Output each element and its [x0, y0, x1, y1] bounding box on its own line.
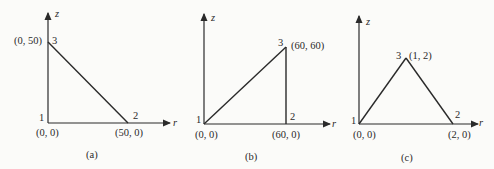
diagram-canvas: [0, 0, 494, 169]
caption-b: (b): [245, 152, 257, 163]
figure-b: [204, 14, 330, 124]
node-3-coord-c: (1, 2): [409, 51, 432, 62]
edge-1-3-b: [204, 47, 286, 124]
node-3-coord-b: (60, 60): [291, 41, 324, 52]
edge-1-3-c: [359, 58, 406, 124]
node-1-id-a: 1: [39, 113, 44, 124]
node-2-coord-a: (50, 0): [115, 128, 143, 139]
figure-c: [359, 16, 478, 124]
node-1-coord-b: (0, 0): [195, 130, 218, 141]
node-1-coord-c: (0, 0): [353, 130, 376, 141]
caption-a: (a): [86, 150, 98, 161]
node-1-coord-a: (0, 0): [36, 128, 59, 139]
node-3-id-c: 3: [396, 51, 401, 62]
axis-z-label-b: z: [211, 13, 215, 24]
axis-r-label-c: r: [479, 118, 483, 129]
node-1-id-b: 1: [196, 115, 201, 126]
node-3-id-b: 3: [278, 38, 283, 49]
node-2-id-c: 2: [455, 110, 460, 121]
caption-c: (c): [401, 153, 413, 164]
axis-r-label-a: r: [173, 118, 177, 129]
edge-3-2-a: [48, 42, 128, 123]
node-3-id-a: 3: [52, 36, 57, 47]
node-2-coord-b: (60, 0): [272, 130, 300, 141]
node-3-coord-a: (0, 50): [14, 36, 42, 47]
node-2-id-a: 2: [133, 111, 138, 122]
edge-3-2-c: [406, 58, 453, 124]
axis-r-label-b: r: [332, 119, 336, 130]
axis-z-label-c: z: [366, 17, 370, 28]
node-2-coord-c: (2, 0): [448, 130, 471, 141]
axis-z-label-a: z: [55, 9, 59, 20]
node-1-id-c: 1: [351, 116, 356, 127]
figure-a: [48, 13, 170, 123]
node-2-id-b: 2: [290, 112, 295, 123]
